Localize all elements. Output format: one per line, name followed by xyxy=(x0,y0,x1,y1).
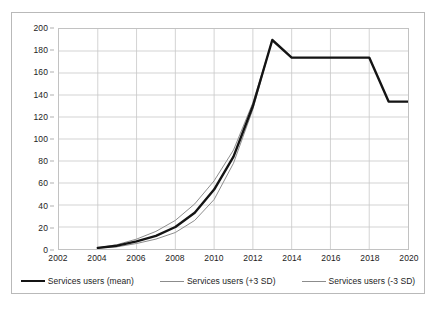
y-axis-tick-label: 120 xyxy=(34,113,48,122)
y-axis-tick-label: 60 xyxy=(38,179,48,188)
y-axis-tick-label: 0 xyxy=(43,246,48,255)
legend-line-swatch-icon xyxy=(21,280,45,282)
y-axis-tick-label: 40 xyxy=(38,201,48,210)
x-axis-tick-label: 2018 xyxy=(360,254,379,263)
x-axis-tick-label: 2016 xyxy=(321,254,340,263)
legend-line-swatch-icon xyxy=(160,281,184,282)
y-axis: 020406080100120140160180200 xyxy=(12,28,54,250)
x-axis-tick-label: 2002 xyxy=(48,254,67,263)
y-axis-tick-label: 180 xyxy=(34,46,48,55)
x-axis-tick-label: 2004 xyxy=(87,254,106,263)
legend-item[interactable]: Services users (mean) xyxy=(21,277,134,286)
y-axis-tick-mark xyxy=(50,139,54,140)
legend-line-swatch-icon xyxy=(302,281,326,282)
legend-item[interactable]: Services users (+3 SD) xyxy=(160,277,276,286)
y-axis-tick-mark xyxy=(50,250,54,251)
y-axis-tick-mark xyxy=(50,72,54,73)
y-axis-tick-label: 80 xyxy=(38,157,48,166)
legend-item-label: Services users (+3 SD) xyxy=(187,277,276,286)
chart-plot-svg xyxy=(59,29,408,249)
y-axis-tick-mark xyxy=(50,94,54,95)
gridlines xyxy=(59,29,408,249)
x-axis-tick-label: 2006 xyxy=(126,254,145,263)
y-axis-tick-mark xyxy=(50,116,54,117)
y-axis-tick-label: 100 xyxy=(34,135,48,144)
x-axis-tick-label: 2008 xyxy=(165,254,184,263)
y-axis-tick-label: 160 xyxy=(34,68,48,77)
legend-item[interactable]: Services users (-3 SD) xyxy=(302,277,416,286)
y-axis-tick-label: 140 xyxy=(34,90,48,99)
y-axis-tick-mark xyxy=(50,227,54,228)
plot-area xyxy=(58,28,409,250)
y-axis-tick-mark xyxy=(50,205,54,206)
x-axis-tick-label: 2012 xyxy=(243,254,262,263)
legend-item-label: Services users (-3 SD) xyxy=(329,277,416,286)
y-axis-tick-mark xyxy=(50,28,54,29)
x-axis: 2002200420062008201020122014201620182020 xyxy=(58,254,409,270)
chart-legend: Services users (mean)Services users (+3 … xyxy=(12,271,424,291)
y-axis-tick-label: 200 xyxy=(34,24,48,33)
x-axis-tick-label: 2010 xyxy=(204,254,223,263)
y-axis-tick-mark xyxy=(50,183,54,184)
y-axis-tick-label: 20 xyxy=(38,224,48,233)
chart-frame: 020406080100120140160180200 200220042006… xyxy=(11,12,425,294)
y-axis-tick-mark xyxy=(50,50,54,51)
legend-item-label: Services users (mean) xyxy=(48,277,134,286)
y-axis-tick-mark xyxy=(50,161,54,162)
x-axis-tick-label: 2014 xyxy=(282,254,301,263)
x-axis-tick-label: 2020 xyxy=(399,254,418,263)
